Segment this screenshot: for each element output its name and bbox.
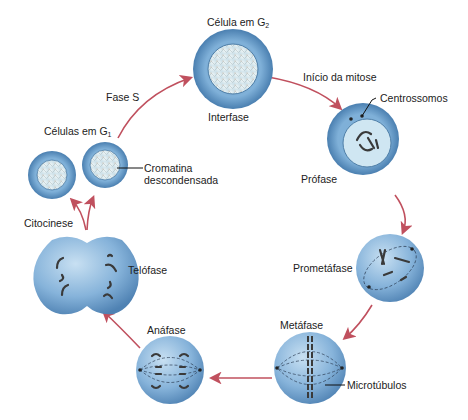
- label-chromatin: Cromatinadescondensada: [144, 162, 218, 186]
- cell-prometaphase: [356, 234, 424, 302]
- label-metaphase: Metáfase: [280, 319, 323, 331]
- arrow-prophase-prometaphase: [395, 195, 405, 232]
- label-centrosomes: Centrossomos: [380, 92, 448, 104]
- cell-g1-left: [28, 151, 76, 199]
- label-prophase: Prófase: [301, 173, 337, 185]
- label-prometaphase: Prometáfase: [293, 262, 353, 274]
- cell-anaphase: [136, 336, 204, 404]
- label-cytokinesis: Citocinese: [24, 217, 73, 229]
- cell-telophase: [33, 237, 138, 315]
- cell-cycle-diagram: [0, 0, 468, 420]
- arrow-cytokinesis-left: [72, 200, 86, 230]
- arrow-prometaphase-metaphase: [345, 305, 372, 338]
- cell-g1-right: [82, 142, 128, 188]
- label-interphase: Interfase: [208, 111, 249, 123]
- label-s-phase: Fase S: [106, 91, 139, 103]
- label-telophase: Telófase: [128, 264, 167, 276]
- cell-metaphase: [274, 332, 346, 404]
- arrow-cytokinesis-right: [87, 198, 93, 230]
- label-anaphase: Anáfase: [147, 324, 186, 336]
- label-g1-cells: Células em G1: [44, 125, 112, 139]
- label-mitosis-start: Início da mitose: [303, 71, 377, 83]
- arrow-s-phase: [118, 78, 190, 138]
- label-g2-cell: Célula em G2: [207, 16, 269, 30]
- arrow-anaphase-telophase: [104, 312, 140, 348]
- label-microtubules: Microtúbulos: [347, 379, 407, 391]
- cell-g2: [193, 29, 273, 109]
